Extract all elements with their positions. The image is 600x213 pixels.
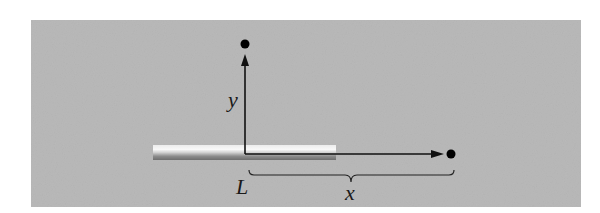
diagram-canvas: y L x [0, 0, 600, 213]
rod-length-label: L [235, 174, 248, 199]
x-distance-label: x [344, 180, 355, 205]
field-point-x [447, 150, 456, 159]
field-point-y [241, 40, 250, 49]
y-axis-label: y [226, 87, 238, 112]
background-panel [31, 20, 581, 207]
